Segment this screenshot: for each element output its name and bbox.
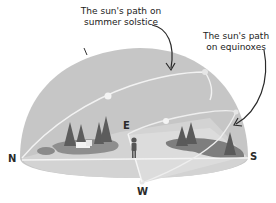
sun-marker-summer-1 xyxy=(105,93,112,100)
summer-annotation: The sun's path on summer solstice xyxy=(76,6,166,28)
sun-marker-equinox-1 xyxy=(163,118,169,124)
summer-annotation-line1: The sun's path on xyxy=(76,6,166,17)
direction-north: N xyxy=(8,153,16,164)
sun-marker-summer-2 xyxy=(202,69,208,75)
equinox-annotation-line2: on equinoxes xyxy=(196,42,276,53)
bush-left xyxy=(37,147,55,155)
sun-marker-equinox-2 xyxy=(234,110,239,115)
equinox-annotation: The sun's path on equinoxes xyxy=(196,31,276,53)
dome-tick xyxy=(84,48,87,55)
equinox-annotation-line1: The sun's path xyxy=(196,31,276,42)
summer-annotation-line2: summer solstice xyxy=(76,17,166,28)
direction-east: E xyxy=(123,120,130,131)
direction-south: S xyxy=(250,151,257,162)
direction-west: W xyxy=(137,186,148,197)
equinox-arrow-icon xyxy=(236,50,266,124)
